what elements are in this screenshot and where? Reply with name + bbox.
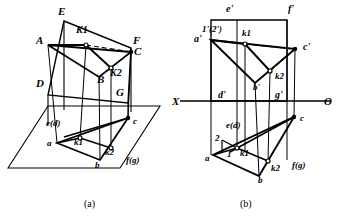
diagram-a-group: E A K1 F C K2 B D G e(d) c a k1 k2 b f(g…	[8, 5, 160, 170]
label-b-fg: f(g)	[292, 160, 306, 170]
connector-b	[255, 83, 259, 176]
projector-B-b	[99, 77, 100, 160]
label-a-b: b	[95, 160, 100, 170]
label-a-C: C	[134, 45, 142, 57]
axis-label-x: X	[171, 95, 180, 107]
technical-drawing-canvas: E A K1 F C K2 B D G e(d) c a k1 k2 b f(g…	[0, 0, 338, 218]
label-b-k2: k2	[271, 163, 281, 173]
label-a-a: a	[47, 138, 52, 148]
horiz-trace-ed-fg	[64, 118, 128, 137]
label-b-dp: d'	[218, 89, 226, 100]
front-k1-k2	[245, 44, 270, 71]
label-a-k2: k2	[105, 147, 115, 157]
label-a-k1: k1	[74, 137, 83, 147]
front-a-k1	[211, 40, 245, 44]
marker-k1-front	[243, 42, 247, 46]
label-b-gp: g'	[274, 89, 283, 100]
triangle-abc-horizontal	[57, 118, 128, 160]
label-b-ap: a'	[194, 33, 202, 44]
label-b-k1p: k1	[242, 28, 251, 38]
label-a-G: G	[116, 86, 124, 98]
label-b-cp: c'	[303, 41, 310, 52]
label-b-one: 1	[227, 149, 232, 159]
marker-k2-front	[268, 69, 272, 73]
label-b-bp: b'	[253, 82, 261, 92]
label-b-12p: 1'(2')	[202, 24, 222, 34]
marker-c-top	[292, 115, 296, 119]
marker-c-front	[293, 47, 297, 51]
marker-k2-top	[266, 159, 270, 163]
caption-a: (a)	[84, 198, 95, 210]
caption-b: (b)	[240, 198, 252, 210]
connector-k2	[268, 71, 270, 161]
marker-c-h	[126, 116, 130, 120]
label-b-fp: f'	[288, 3, 294, 14]
projector-K1-k1	[80, 45, 86, 138]
marker-C	[129, 50, 133, 54]
label-a-ed: e(d)	[46, 118, 61, 128]
connector-c	[294, 49, 295, 117]
label-a-K2: K2	[109, 67, 122, 78]
label-a-B: B	[96, 73, 104, 85]
label-b-b: b	[258, 175, 263, 185]
diagram-b-group: X O	[171, 3, 332, 185]
label-b-k1: k1	[240, 148, 249, 158]
label-a-K1: K1	[75, 24, 88, 35]
label-a-E: E	[57, 5, 65, 17]
label-a-c: c	[133, 116, 137, 126]
label-b-a: a	[205, 153, 210, 163]
label-a-D: D	[35, 77, 44, 89]
label-b-k2p: k2	[275, 71, 285, 81]
marker-K1	[84, 43, 88, 47]
label-a-A: A	[35, 34, 43, 46]
axis-label-o: O	[324, 95, 332, 107]
label-a-fg: f(g)	[126, 155, 140, 165]
label-b-two: 2	[214, 133, 220, 143]
label-b-ed: e(d)	[226, 120, 241, 130]
label-b-c: c	[300, 113, 304, 123]
label-b-ep: e'	[226, 3, 233, 14]
marker-k1-top	[235, 146, 239, 150]
figure-root: E A K1 F C K2 B D G e(d) c a k1 k2 b f(g…	[0, 0, 338, 218]
